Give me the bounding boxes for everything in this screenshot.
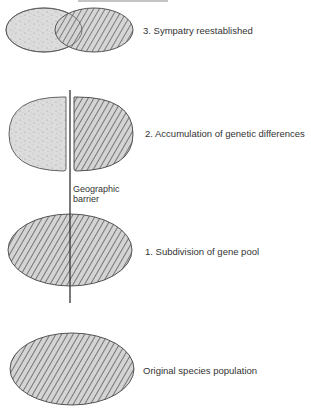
barrier-label-line2: barrier xyxy=(73,194,120,204)
stage-3-populations xyxy=(6,8,133,52)
cropped-caption xyxy=(78,0,168,2)
stage-2-populations xyxy=(9,97,133,171)
stage-2-label: 2. Accumulation of genetic differences xyxy=(145,128,305,139)
stage-3-label: 3. Sympatry reestablished xyxy=(143,25,253,36)
original-population xyxy=(10,333,134,405)
speciation-diagram xyxy=(0,0,311,409)
stage-1-label: 1. Subdivision of gene pool xyxy=(145,246,259,257)
hatched-population xyxy=(55,8,133,52)
stippled-half xyxy=(9,97,66,171)
original-population-label: Original species population xyxy=(143,365,257,376)
hatched-half xyxy=(74,97,133,171)
geographic-barrier-label: Geographic barrier xyxy=(73,184,120,204)
barrier-label-line1: Geographic xyxy=(73,184,120,194)
